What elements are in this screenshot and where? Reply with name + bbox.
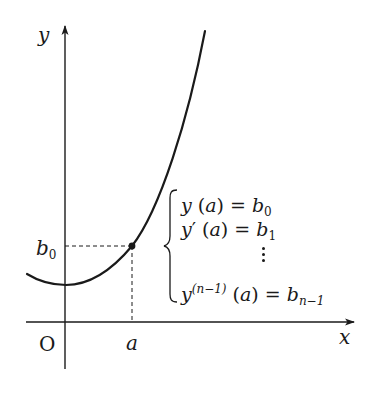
condition-0-arg: (a) [192, 194, 224, 216]
condition-1-rhs: b [256, 218, 268, 240]
condition-1: y′ (a) = b1 [181, 220, 276, 242]
point-y-label-base: b [36, 236, 49, 260]
condition-2-arg: (a) [227, 283, 259, 305]
condition-1-arg: (a) [196, 218, 228, 240]
point-y-label: b0 [36, 238, 56, 261]
condition-0-rhs-sub: 0 [264, 205, 272, 219]
y-axis-label: y [38, 25, 49, 45]
point-x-label: a [126, 333, 138, 353]
condition-0-rhs: b [252, 194, 264, 216]
vertical-ellipsis [262, 247, 265, 265]
condition-2-func: y [181, 283, 192, 305]
left-brace [164, 190, 177, 302]
condition-1-rhs-sub: 1 [268, 229, 276, 243]
condition-2: y(n−1) (a) = bn−1 [181, 283, 324, 307]
x-axis-label: x [339, 327, 350, 347]
point-y-label-sub: 0 [49, 248, 57, 262]
condition-2-rhs-sub: n−1 [299, 294, 324, 308]
condition-1-func: y [181, 218, 192, 240]
initial-point [129, 243, 136, 250]
condition-0: y (a) = b0 [181, 196, 272, 218]
condition-2-rhs: b [287, 283, 299, 305]
origin-label: O [39, 334, 55, 354]
condition-0-func: y [181, 194, 192, 216]
condition-2-mark: (n−1) [192, 282, 227, 296]
